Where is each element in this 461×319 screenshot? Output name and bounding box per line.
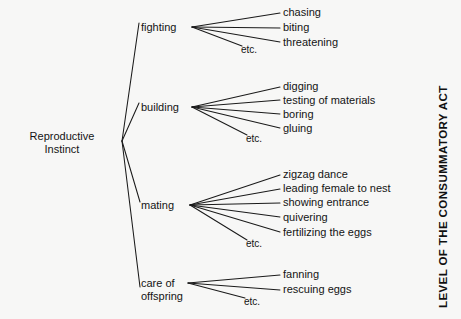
branch-label-building: building: [141, 101, 179, 113]
vertical-axis-label: LEVEL OF THE CONSUMMATORY ACT: [437, 85, 449, 308]
edge-fighting-etc: [192, 27, 242, 46]
branch-label-care-of-offspring-line1: care of: [141, 277, 176, 289]
branch-edge-group-mating: [190, 175, 280, 240]
edge-mating-showing-entrance: [190, 203, 280, 205]
root-edge-to-care-of-offspring: [122, 141, 140, 287]
edge-mating-quivering: [190, 205, 280, 217]
leaf-label-quivering: quivering: [283, 211, 328, 223]
leaf-label-boring: boring: [283, 108, 314, 120]
root-node-label-line1: Reproductive: [30, 130, 95, 142]
leaf-label-testing-of-materials: testing of materials: [283, 94, 376, 106]
branch-label-mating: mating: [141, 199, 174, 211]
branch-edge-group-care-of-offspring: [188, 275, 280, 298]
root-edge-to-mating: [122, 141, 140, 202]
leaf-label-fanning: fanning: [283, 268, 319, 280]
root-node-label-line2: Instinct: [45, 143, 80, 155]
edge-mating-leading-female: [190, 189, 280, 205]
edge-mating-etc: [190, 205, 247, 240]
leaf-label-gluing: gluing: [283, 122, 312, 134]
edge-fighting-threatening: [192, 27, 280, 42]
branch-edge-group-fighting: [192, 13, 280, 46]
leaf-label-digging: digging: [283, 80, 318, 92]
diagram-figure: Reproductive Instinct fighting chasing b…: [0, 0, 461, 319]
leaf-label-leading-female-to-nest: leading female to nest: [283, 182, 391, 194]
leaf-label-showing-entrance: showing entrance: [283, 196, 369, 208]
edge-mating-zigzag-dance: [190, 175, 280, 205]
etc-label-care-of-offspring: etc.: [244, 296, 260, 307]
edge-care-fanning: [188, 275, 280, 283]
etc-label-fighting: etc.: [241, 44, 257, 55]
leaf-label-chasing: chasing: [283, 6, 321, 18]
root-edge-group: [122, 23, 140, 287]
etc-label-building: etc.: [246, 133, 262, 144]
leaf-label-rescuing-eggs: rescuing eggs: [283, 283, 352, 295]
leaf-label-fertilizing-the-eggs: fertilizing the eggs: [283, 226, 372, 238]
etc-label-mating: etc.: [246, 238, 262, 249]
root-edge-to-fighting: [122, 23, 139, 141]
branch-label-fighting: fighting: [141, 21, 176, 33]
edge-fighting-biting: [192, 27, 280, 28]
leaf-label-threatening: threatening: [283, 36, 338, 48]
branch-label-care-of-offspring-line2: offspring: [141, 290, 183, 302]
edge-mating-fertilizing: [190, 205, 280, 232]
edge-fighting-chasing: [192, 13, 280, 27]
leaf-label-biting: biting: [283, 21, 309, 33]
tree-diagram-canvas: Reproductive Instinct fighting chasing b…: [0, 0, 461, 319]
leaf-label-zigzag-dance: zigzag dance: [283, 168, 348, 180]
branch-edge-group-building: [192, 87, 280, 135]
